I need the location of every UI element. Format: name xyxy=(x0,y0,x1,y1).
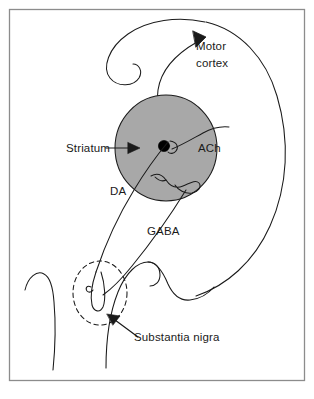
label-gaba: GABA xyxy=(147,225,180,237)
label-ach: ACh xyxy=(198,142,221,154)
brain-pathway-diagram: Motor cortex Striatum ACh DA GABA Substa… xyxy=(0,0,314,399)
label-da: DA xyxy=(110,185,126,197)
label-motor-cortex-line2: cortex xyxy=(196,57,228,69)
label-motor-cortex-line1: Motor xyxy=(196,40,226,52)
figure-container: Motor cortex Striatum ACh DA GABA Substa… xyxy=(0,0,314,399)
label-substantia-nigra: Substantia nigra xyxy=(134,331,220,343)
label-striatum: Striatum xyxy=(66,142,110,154)
